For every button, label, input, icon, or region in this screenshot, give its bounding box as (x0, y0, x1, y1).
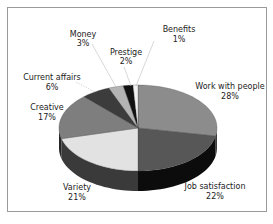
label-current-affairs-pct: 6% (46, 83, 59, 92)
label-prestige-name: Prestige (110, 48, 142, 57)
pie-chart: Money 3% Prestige 2% Benefits 1% Current… (0, 0, 273, 224)
label-money-name: Money (70, 30, 97, 39)
prestige-leader-line (124, 67, 131, 86)
current-affairs-leader-line (76, 82, 95, 92)
label-creative-name: Creative (30, 103, 64, 112)
label-job-satisfaction-pct: 22% (206, 192, 224, 201)
label-current-affairs-name: Current affairs (23, 73, 81, 82)
pie-slice-work-with-people (138, 85, 217, 136)
label-creative-pct: 17% (38, 113, 56, 122)
label-benefits-name: Benefits (163, 25, 196, 34)
pie-top (59, 85, 217, 171)
label-variety-pct: 21% (68, 193, 86, 202)
label-money-pct: 3% (77, 39, 90, 48)
label-prestige-pct: 2% (120, 57, 133, 66)
label-job-satisfaction-name: Job satisfaction (184, 182, 246, 191)
label-benefits-pct: 1% (173, 35, 186, 44)
label-work-with-people-name: Work with people (195, 82, 265, 91)
label-work-with-people-pct: 28% (221, 92, 239, 101)
label-variety-name: Variety (63, 183, 91, 192)
